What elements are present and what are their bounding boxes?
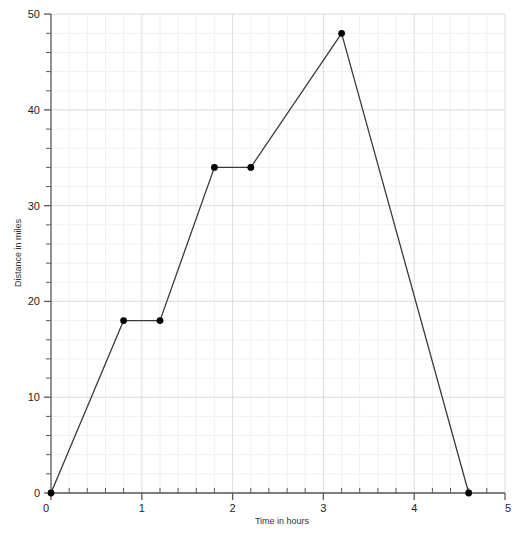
y-tick-label-0: 0 xyxy=(34,487,40,499)
x-tick-label-0: 0 xyxy=(43,502,49,514)
x-axis-major-ticks xyxy=(51,493,505,500)
chart-canvas: 0 10 20 30 40 50 0 1 2 3 4 5 Time in hou… xyxy=(0,0,519,533)
data-point xyxy=(338,30,345,37)
y-tick-label-20: 20 xyxy=(28,295,40,307)
y-axis-major-ticks xyxy=(44,14,51,493)
data-point xyxy=(120,317,127,324)
data-point xyxy=(211,164,218,171)
data-point xyxy=(247,164,254,171)
data-point xyxy=(157,317,164,324)
x-tick-label-5: 5 xyxy=(505,502,511,514)
y-tick-label-30: 30 xyxy=(28,200,40,212)
x-axis-title: Time in hours xyxy=(255,516,310,526)
y-tick-label-40: 40 xyxy=(28,104,40,116)
y-tick-label-50: 50 xyxy=(28,8,40,20)
distance-time-line-chart: 0 10 20 30 40 50 0 1 2 3 4 5 Time in hou… xyxy=(0,0,519,533)
y-tick-label-10: 10 xyxy=(28,391,40,403)
y-axis-title: Distance in miles xyxy=(13,218,23,287)
plot-background xyxy=(51,14,505,493)
data-point xyxy=(48,490,55,497)
x-tick-label-3: 3 xyxy=(320,502,326,514)
x-tick-label-2: 2 xyxy=(230,502,236,514)
data-point xyxy=(465,490,472,497)
y-axis-minor-ticks xyxy=(46,33,51,474)
x-tick-label-1: 1 xyxy=(139,502,145,514)
x-tick-label-4: 4 xyxy=(411,502,417,514)
